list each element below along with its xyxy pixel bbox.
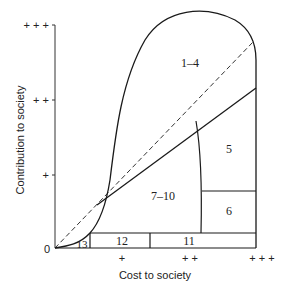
region-13: 13 [77,238,89,250]
region-7-10: 7–10 [151,189,175,203]
cost-contribution-diagram: + + + + + + 0 Contribution to society + … [0,0,281,293]
y-tick-1: + [43,169,49,181]
region-divider-curve [196,121,201,233]
x-tick-1: + [119,252,125,264]
x-tick-3: + + + [249,252,274,264]
y-tick-3: + + + [24,19,49,31]
dashed-diagonal [55,42,253,248]
y-tick-2: + + [33,94,49,106]
region-5: 5 [226,142,232,156]
y-axis-label: Contribution to society [14,85,26,194]
origin-label: 0 [44,243,50,255]
region-12: 12 [116,234,128,248]
region-11: 11 [183,234,195,248]
x-tick-2: + + [182,252,198,264]
x-axis-label: Cost to society [119,269,192,281]
region-6: 6 [226,204,232,218]
region-1-4: 1–4 [181,56,199,70]
